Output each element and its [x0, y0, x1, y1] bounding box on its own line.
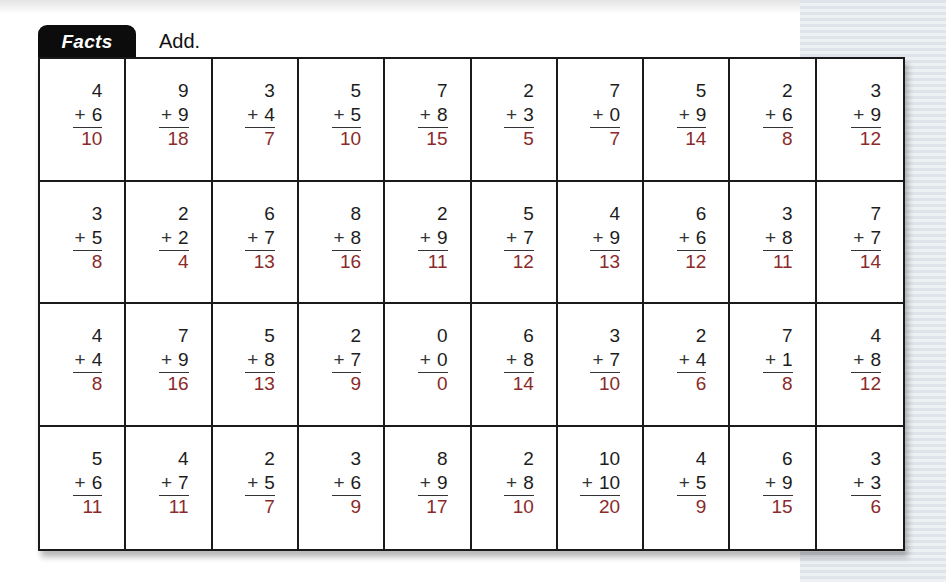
answer-sum: 6 [870, 496, 881, 518]
addend-top: 4 [696, 447, 707, 471]
addition-problem: 3+811 [763, 202, 793, 273]
addend-bottom-row: +8 [245, 348, 275, 373]
addend-bottom: 1 [782, 348, 793, 372]
problem-cell: 5+611 [40, 427, 126, 550]
addend-bottom: 8 [351, 226, 362, 250]
answer-sum: 15 [772, 496, 793, 518]
addition-problem: 9+918 [159, 79, 189, 150]
addend-top: 5 [351, 79, 362, 103]
addition-problem: 3+36 [851, 447, 881, 518]
addend-bottom: 4 [696, 348, 707, 372]
addend-top: 2 [696, 324, 707, 348]
plus-sign: + [765, 226, 776, 250]
answer-sum: 10 [81, 128, 102, 150]
addition-problem: 2+68 [763, 79, 793, 150]
answer-sum: 6 [696, 373, 707, 395]
plus-sign: + [420, 348, 431, 372]
addend-bottom-row: +9 [763, 471, 793, 496]
answer-sum: 9 [351, 373, 362, 395]
problem-cell: 2+46 [644, 304, 730, 427]
addend-top: 7 [178, 324, 189, 348]
addend-bottom-row: +8 [851, 348, 881, 373]
addend-bottom-row: +5 [245, 471, 275, 496]
plus-sign: + [853, 226, 864, 250]
addend-bottom-row: +7 [851, 226, 881, 251]
answer-sum: 8 [782, 128, 793, 150]
addend-top: 2 [264, 447, 275, 471]
answer-sum: 15 [426, 128, 447, 150]
addition-problem: 4+59 [677, 447, 707, 518]
addition-problem: 7+07 [590, 79, 620, 150]
problem-cell: 10+1020 [558, 427, 644, 550]
addend-bottom-row: +5 [73, 226, 103, 251]
plus-sign: + [334, 471, 345, 495]
addend-bottom-row: +8 [332, 226, 362, 251]
addend-bottom-row: +5 [677, 471, 707, 496]
addition-problem: 4+711 [159, 447, 189, 518]
answer-sum: 11 [83, 496, 103, 518]
answer-sum: 12 [860, 128, 881, 150]
addend-top: 9 [178, 79, 189, 103]
addend-bottom: 3 [870, 471, 881, 495]
plus-sign: + [506, 103, 517, 127]
plus-sign: + [247, 103, 258, 127]
addend-bottom: 6 [696, 226, 707, 250]
plus-sign: + [853, 471, 864, 495]
plus-sign: + [765, 103, 776, 127]
plus-sign: + [765, 471, 776, 495]
problem-cell: 2+24 [126, 182, 212, 305]
answer-sum: 11 [169, 496, 189, 518]
problem-cell: 2+810 [472, 427, 558, 550]
addend-bottom: 8 [870, 348, 881, 372]
problem-cell: 7+815 [385, 59, 471, 182]
addend-bottom: 6 [92, 471, 103, 495]
addend-top: 3 [92, 202, 103, 226]
plus-sign: + [334, 226, 345, 250]
answer-sum: 17 [426, 496, 447, 518]
answer-sum: 16 [167, 373, 188, 395]
plus-sign: + [334, 103, 345, 127]
plus-sign: + [161, 226, 172, 250]
addend-bottom-row: +9 [159, 348, 189, 373]
problem-cell: 3+47 [213, 59, 299, 182]
addend-bottom-row: +8 [504, 471, 534, 496]
plus-sign: + [247, 226, 258, 250]
addend-top: 5 [523, 202, 534, 226]
addend-bottom-row: +5 [332, 103, 362, 128]
addition-problem: 2+911 [418, 202, 448, 273]
answer-sum: 12 [685, 251, 706, 273]
addend-bottom: 10 [599, 471, 620, 495]
addend-top: 4 [610, 202, 621, 226]
addition-problem: 3+47 [245, 79, 275, 150]
addend-bottom-row: +9 [851, 103, 881, 128]
answer-sum: 10 [513, 496, 534, 518]
problem-cell: 4+913 [558, 182, 644, 305]
addend-bottom: 9 [437, 226, 448, 250]
addend-top: 6 [782, 447, 793, 471]
addend-bottom: 9 [696, 103, 707, 127]
addend-bottom: 7 [610, 348, 621, 372]
addend-bottom: 7 [351, 348, 362, 372]
addition-problem: 8+917 [418, 447, 448, 518]
addend-bottom-row: +4 [245, 103, 275, 128]
addend-bottom: 7 [264, 226, 275, 250]
answer-sum: 8 [92, 251, 103, 273]
addend-bottom: 8 [437, 103, 448, 127]
addition-problem: 4+48 [73, 324, 103, 395]
answer-sum: 14 [513, 373, 534, 395]
problem-cell: 6+713 [213, 182, 299, 305]
addend-top: 7 [437, 79, 448, 103]
addend-top: 2 [351, 324, 362, 348]
problem-cell: 6+612 [644, 182, 730, 305]
answer-sum: 20 [599, 496, 620, 518]
addend-top: 4 [178, 447, 189, 471]
addend-bottom: 5 [351, 103, 362, 127]
addend-bottom-row: +7 [332, 348, 362, 373]
addend-bottom-row: +9 [159, 103, 189, 128]
addend-top: 4 [870, 324, 881, 348]
problem-cell: 3+710 [558, 304, 644, 427]
addend-bottom-row: +0 [418, 348, 448, 373]
addend-bottom: 6 [351, 471, 362, 495]
plus-sign: + [853, 103, 864, 127]
addition-problem: 5+611 [73, 447, 103, 518]
